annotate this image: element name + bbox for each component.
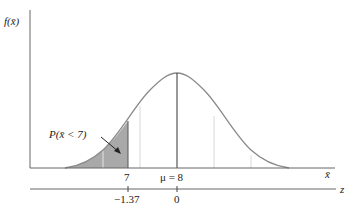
z-tick-neg-label: −1.37 [114, 193, 140, 205]
z-tick-0-label: 0 [174, 193, 180, 205]
probability-annotation: P(x̄ < 7) [48, 128, 87, 141]
y-axis-label: f(x̄) [4, 15, 20, 28]
z-axis-label: z [339, 183, 345, 195]
x-tick-7-label: 7 [124, 171, 130, 183]
normal-distribution-chart: f(x̄) x̄ z P(x̄ < 7) 7 μ = 8 −1.37 0 [0, 0, 355, 211]
x-tick-mean-label: μ = 8 [160, 171, 184, 183]
x-axis-label: x̄ [324, 168, 330, 180]
